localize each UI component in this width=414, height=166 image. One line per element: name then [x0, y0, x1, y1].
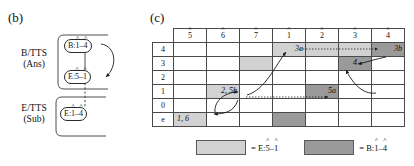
node-e-1-4-second: 4: [79, 108, 83, 120]
legend-swatch-light: [196, 140, 246, 155]
grid-row-e: e1, 6: [153, 113, 405, 127]
grid-row-header-3: 3: [153, 57, 174, 71]
grid-cell-3-1[interactable]: [273, 57, 306, 71]
legend-second-2: 4: [383, 143, 387, 153]
grid-cell-note: 5a: [328, 86, 336, 95]
legend-equals-2: =: [359, 143, 364, 153]
grid-cell-e-3[interactable]: [339, 113, 372, 127]
grid-col-header-label: 7: [254, 31, 258, 40]
grid-cell-4-4[interactable]: 3b: [372, 43, 405, 57]
grid-cell-e-6[interactable]: [207, 113, 240, 127]
legend-second-1: 1: [274, 143, 278, 153]
grid-cell-3-2[interactable]: [306, 57, 339, 71]
legend-label-b-1-4: = B:1–4: [359, 143, 387, 153]
grid-cell-0-1[interactable]: [273, 99, 306, 113]
metrical-grid: 5671234 43a3b34212, 5b5a0e1, 6: [152, 28, 405, 127]
node-b-1-4-first: 1: [76, 40, 80, 52]
grid-cell-0-6[interactable]: [207, 99, 240, 113]
tier-label-b-tts: B/TTS (Ans): [11, 48, 57, 70]
grid-cell-2-2[interactable]: [306, 71, 339, 85]
grid-cell-e-5[interactable]: 1, 6: [174, 113, 207, 127]
grid-row-2: 2: [153, 71, 405, 85]
grid-col-header-label: 4: [386, 31, 390, 40]
grid-cell-2-4[interactable]: [372, 71, 405, 85]
grid-cell-2-6[interactable]: [207, 71, 240, 85]
grid-cell-e-7[interactable]: [240, 113, 273, 127]
node-e-5-1-prefix: E:: [68, 72, 75, 81]
node-b-1-4-second: 4: [84, 40, 88, 52]
grid-cell-0-2[interactable]: [306, 99, 339, 113]
grid-cell-2-1[interactable]: [273, 71, 306, 85]
tier-label-e-tts-line2: (Sub): [11, 114, 57, 125]
grid-cell-1-4[interactable]: [372, 85, 405, 99]
grid-cell-0-7[interactable]: [240, 99, 273, 113]
grid-cell-1-3[interactable]: [339, 85, 372, 99]
grid-cell-2-7[interactable]: [240, 71, 273, 85]
grid-col-header-2: 2: [306, 29, 339, 43]
panel-b-label: (b): [8, 10, 23, 26]
grid-cell-e-2[interactable]: [306, 113, 339, 127]
grid-row-0: 0: [153, 99, 405, 113]
node-e-1-4-first: 1: [71, 108, 75, 120]
grid-col-header-label: 3: [353, 31, 357, 40]
node-b-1-4: B:1–4: [64, 39, 92, 53]
grid-cell-2-5[interactable]: [174, 71, 207, 85]
grid-cell-0-3[interactable]: [339, 99, 372, 113]
grid-row-header-1: 1: [153, 85, 174, 99]
grid-cell-1-6[interactable]: 2, 5b: [207, 85, 240, 99]
grid-col-header-label: 6: [221, 31, 225, 40]
grid-cell-4-3[interactable]: [339, 43, 372, 57]
grid-col-header-6: 6: [207, 29, 240, 43]
grid-body: 43a3b34212, 5b5a0e1, 6: [153, 43, 405, 127]
grid-row-header-e: e: [153, 113, 174, 127]
tier-label-b-tts-line1: B/TTS: [11, 48, 57, 59]
figure-container: (b) B/TTS (Ans) E/TTS (Sub) B:1–4 E:5–1 …: [0, 0, 414, 166]
panel-c-label: (c): [150, 10, 164, 26]
legend-item-e-5-1: = E:5–1: [196, 140, 278, 155]
grid-cell-1-1[interactable]: [273, 85, 306, 99]
legend-swatch-dark: [304, 140, 354, 155]
grid-cell-1-5[interactable]: [174, 85, 207, 99]
grid-cell-note: 2, 5b: [221, 86, 237, 95]
grid-cell-1-7[interactable]: [240, 85, 273, 99]
legend-equals-1: =: [251, 143, 256, 153]
node-e-5-1-first: 5: [75, 71, 79, 83]
grid-cell-3-6[interactable]: [207, 57, 240, 71]
arrow-b14-to-e51: [101, 44, 114, 77]
grid-cell-4-6[interactable]: [207, 43, 240, 57]
legend-first-2: 1: [374, 143, 378, 153]
grid-cell-3-7[interactable]: [240, 57, 273, 71]
grid-col-header-label: 5: [188, 31, 192, 40]
node-e-5-1: E:5–1: [64, 70, 91, 84]
grid-col-header-label: 1: [287, 31, 291, 40]
node-e-5-1-second: 1: [83, 71, 87, 83]
grid-cell-4-7[interactable]: [240, 43, 273, 57]
grid-cell-4-2[interactable]: [306, 43, 339, 57]
legend-prefix-1: E:: [258, 143, 266, 153]
legend-label-e-5-1: = E:5–1: [251, 143, 278, 153]
grid-col-header-5: 5: [174, 29, 207, 43]
grid-cell-3-5[interactable]: [174, 57, 207, 71]
grid-head: 5671234: [153, 29, 405, 43]
grid-row-header-0: 0: [153, 99, 174, 113]
node-e-1-4: E:1–4: [60, 107, 87, 121]
grid-row-header-4: 4: [153, 43, 174, 57]
node-e-1-4-prefix: E:: [64, 109, 71, 118]
grid-col-header-1: 1: [273, 29, 306, 43]
grid-cell-2-3[interactable]: [339, 71, 372, 85]
grid-cell-1-2[interactable]: 5a: [306, 85, 339, 99]
legend: = E:5–1 = B:1–4: [196, 140, 413, 155]
grid-cell-0-4[interactable]: [372, 99, 405, 113]
grid-cell-4-5[interactable]: [174, 43, 207, 57]
grid-cell-e-1[interactable]: [273, 113, 306, 127]
grid-cell-0-5[interactable]: [174, 99, 207, 113]
tier-label-b-tts-line2: (Ans): [11, 59, 57, 70]
node-b-1-4-prefix: B:: [68, 41, 76, 50]
grid-cell-e-4[interactable]: [372, 113, 405, 127]
grid-col-header-7: 7: [240, 29, 273, 43]
grid-cell-3-4[interactable]: [372, 57, 405, 71]
grid-cell-4-1[interactable]: 3a: [273, 43, 306, 57]
grid-col-header-3: 3: [339, 29, 372, 43]
grid-cell-3-3[interactable]: 4: [339, 57, 372, 71]
tier-label-e-tts-line1: E/TTS: [11, 103, 57, 114]
